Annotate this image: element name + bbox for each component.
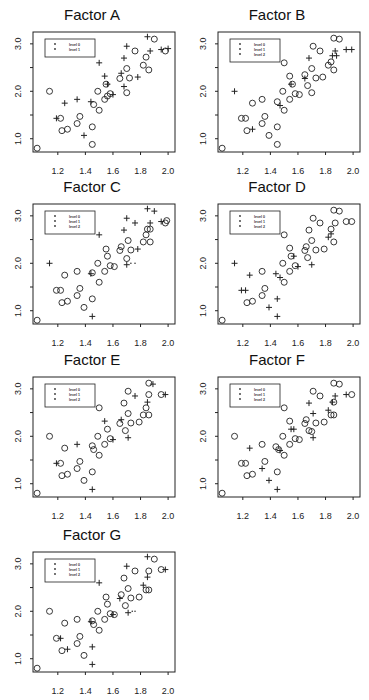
y-tick-label: 2.0 <box>13 430 23 443</box>
legend-entry: level 1 <box>69 568 80 572</box>
x-tick-label: 2.0 <box>162 686 175 696</box>
y-tick-label: 2.0 <box>13 257 23 270</box>
series-level-2 <box>131 610 135 612</box>
scatter-plot: 1.02.03.01.21.41.61.82.0level 0level 1 <box>0 0 184 178</box>
legend-entry: level 1 <box>254 393 265 397</box>
scatter-panel-factor-e: Factor E1.02.03.01.21.41.61.82.0level 0l… <box>0 345 184 517</box>
scatter-plot: 1.02.03.01.21.41.61.82.0level 0level 1le… <box>185 0 369 178</box>
legend-entry: level 2 <box>69 573 80 577</box>
legend-entry: level 2 <box>69 225 80 229</box>
x-tick-label: 1.2 <box>237 511 250 521</box>
y-tick-label: 2.0 <box>198 430 208 443</box>
scatter-panel-factor-g: Factor G1.02.03.01.21.41.61.82.0level 0l… <box>0 520 184 692</box>
y-tick-label: 3.0 <box>13 383 23 396</box>
y-tick-label: 1.0 <box>198 132 208 145</box>
legend: level 0level 1level 2 <box>45 559 95 582</box>
legend-entry: level 0 <box>254 43 265 47</box>
legend: level 0level 1level 2 <box>45 384 95 407</box>
x-tick-label: 1.8 <box>319 511 332 521</box>
y-tick-label: 2.0 <box>198 257 208 270</box>
legend-entry: level 1 <box>254 48 265 52</box>
y-tick-label: 3.0 <box>13 38 23 51</box>
scatter-plot: 1.02.03.01.21.41.61.82.0level 0level 1le… <box>185 345 369 523</box>
y-tick-label: 1.0 <box>13 652 23 665</box>
x-tick-label: 1.8 <box>134 686 147 696</box>
y-tick-label: 3.0 <box>198 38 208 51</box>
legend: level 0level 1level 2 <box>230 211 280 234</box>
series-level-2 <box>130 262 136 264</box>
legend: level 0level 1level 2 <box>230 39 280 62</box>
legend-entry: level 1 <box>69 220 80 224</box>
legend-entry: level 2 <box>254 225 265 229</box>
scatter-panel-factor-b: Factor B1.02.03.01.21.41.61.82.0level 0l… <box>185 0 369 172</box>
legend: level 0level 1level 2 <box>45 211 95 234</box>
y-tick-label: 3.0 <box>13 210 23 223</box>
x-tick-label: 1.2 <box>52 686 65 696</box>
x-tick-label: 2.0 <box>347 511 360 521</box>
y-tick-label: 2.0 <box>198 85 208 98</box>
legend-entry: level 0 <box>254 215 265 219</box>
x-tick-label: 1.6 <box>292 511 305 521</box>
y-tick-label: 3.0 <box>13 558 23 571</box>
x-tick-label: 1.6 <box>107 686 120 696</box>
scatter-plot: 1.02.03.01.21.41.61.82.0level 0level 1le… <box>0 520 184 698</box>
scatter-plot: 1.02.03.01.21.41.61.82.0level 0level 1le… <box>0 345 184 523</box>
scatter-plot: 1.02.03.01.21.41.61.82.0level 0level 1le… <box>0 172 184 350</box>
scatter-panel-factor-c: Factor C1.02.03.01.21.41.61.82.0level 0l… <box>0 172 184 344</box>
legend-entry: level 1 <box>69 48 80 52</box>
y-tick-label: 1.0 <box>13 477 23 490</box>
scatter-plot: 1.02.03.01.21.41.61.82.0level 0level 1le… <box>185 172 369 350</box>
legend-entry: level 0 <box>69 563 80 567</box>
scatter-panel-factor-f: Factor F1.02.03.01.21.41.61.82.0level 0l… <box>185 345 369 517</box>
legend-entry: level 2 <box>254 398 265 402</box>
legend-entry: level 0 <box>69 215 80 219</box>
legend-entry: level 0 <box>69 43 80 47</box>
legend-entry: level 2 <box>254 53 265 57</box>
y-tick-label: 2.0 <box>13 85 23 98</box>
legend-entry: level 1 <box>254 220 265 224</box>
scatter-panel-factor-d: Factor D1.02.03.01.21.41.61.82.0level 0l… <box>185 172 369 344</box>
legend: level 0level 1level 2 <box>230 384 280 407</box>
scatter-panel-factor-a: Factor A1.02.03.01.21.41.61.82.0level 0l… <box>0 0 184 172</box>
y-tick-label: 2.0 <box>13 605 23 618</box>
y-tick-label: 1.0 <box>198 477 208 490</box>
y-tick-label: 1.0 <box>198 304 208 317</box>
x-tick-label: 1.4 <box>79 686 92 696</box>
x-tick-label: 1.4 <box>264 511 277 521</box>
legend-entry: level 0 <box>254 388 265 392</box>
y-tick-label: 1.0 <box>13 304 23 317</box>
legend: level 0level 1 <box>45 39 95 57</box>
legend-entry: level 0 <box>69 388 80 392</box>
legend-entry: level 2 <box>69 398 80 402</box>
y-tick-label: 3.0 <box>198 383 208 396</box>
series-level-1 <box>232 231 335 320</box>
legend-entry: level 1 <box>69 393 80 397</box>
y-tick-label: 3.0 <box>198 210 208 223</box>
y-tick-label: 1.0 <box>13 132 23 145</box>
